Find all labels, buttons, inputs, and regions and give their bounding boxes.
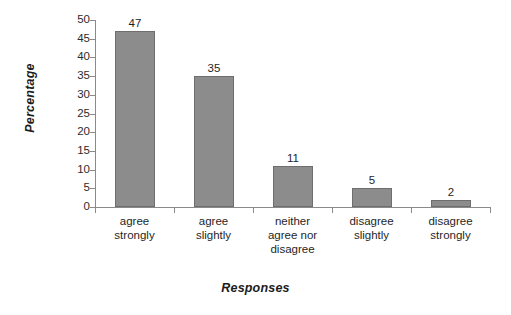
y-tick-label: 0 [84, 199, 90, 214]
category-label: neither agree nor disagree [253, 214, 332, 256]
x-tick-mark [253, 208, 254, 213]
x-tick-mark [174, 208, 175, 213]
y-tick-label: 5 [84, 180, 90, 195]
y-tick-mark [90, 188, 95, 189]
bar: 2 [431, 200, 471, 207]
y-tick-label: 15 [77, 143, 90, 158]
bar: 35 [194, 76, 234, 207]
y-tick-mark [90, 39, 95, 40]
y-tick-mark [90, 76, 95, 77]
bar-value-label: 35 [208, 62, 221, 74]
x-axis-title: Responses [0, 281, 511, 295]
y-tick-label: 30 [77, 87, 90, 102]
y-tick-label: 45 [77, 31, 90, 46]
bar-value-label: 47 [129, 17, 142, 29]
y-axis-line [95, 20, 96, 208]
y-tick-label: 25 [77, 106, 90, 121]
y-tick-mark [90, 151, 95, 152]
category-label: agree slightly [174, 214, 253, 242]
y-tick-mark [90, 57, 95, 58]
category-label: disagree strongly [411, 214, 490, 242]
x-tick-mark [332, 208, 333, 213]
bar-value-label: 2 [448, 186, 454, 198]
x-tick-mark [95, 208, 96, 213]
y-tick-mark [90, 170, 95, 171]
category-label: agree strongly [95, 214, 174, 242]
bar: 11 [273, 166, 313, 207]
bar-chart-figure: Percentage 05101520253035404550 47351152… [0, 0, 511, 315]
y-tick-mark [90, 132, 95, 133]
y-tick-label: 20 [77, 124, 90, 139]
y-tick-mark [90, 114, 95, 115]
y-tick-mark [90, 95, 95, 96]
y-tick-mark [90, 20, 95, 21]
bar-value-label: 5 [369, 174, 375, 186]
x-axis-line [95, 207, 491, 208]
y-tick-label: 10 [77, 162, 90, 177]
y-tick-label: 50 [77, 12, 90, 27]
y-axis-title: Percentage [20, 53, 40, 143]
y-tick-label: 40 [77, 49, 90, 64]
y-tick-label: 35 [77, 68, 90, 83]
category-label: disagree slightly [332, 214, 411, 242]
x-tick-mark [411, 208, 412, 213]
x-tick-mark [490, 208, 491, 213]
plot-area: 05101520253035404550 47351152 [95, 20, 490, 207]
bar: 5 [352, 188, 392, 207]
bar-value-label: 11 [287, 152, 299, 164]
bar: 47 [115, 31, 155, 207]
